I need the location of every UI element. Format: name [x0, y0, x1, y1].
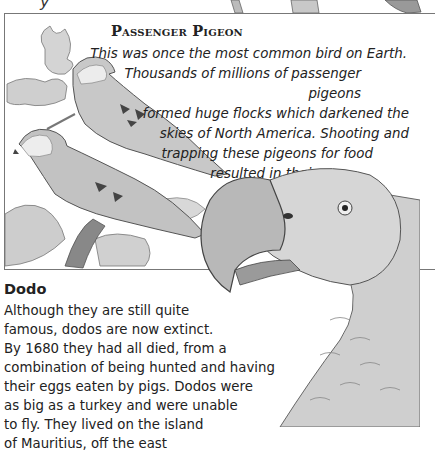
- text-line: to fly. They lived on the island: [4, 415, 275, 434]
- text-line: formed huge flocks which darkened the: [87, 104, 409, 124]
- text-line: their eggs eaten by pigs. Dodos were: [4, 377, 275, 396]
- bird-feet-illustration: [225, 0, 425, 14]
- text-line: By 1680 they had all died, from a: [4, 339, 275, 358]
- text-line: combination of being hunted and having: [4, 358, 275, 377]
- previous-text-fragment: y: [40, 0, 49, 11]
- dodo-text: Although they are still quite famous, do…: [4, 301, 275, 453]
- text-line: of Mauritius, off the east: [4, 434, 275, 453]
- passenger-pigeon-title: Passenger Pigeon: [111, 22, 243, 39]
- text-line: This was once the most common bird on Ea…: [87, 44, 407, 64]
- text-line: famous, dodos are now extinct.: [4, 320, 275, 339]
- text-line: as big as a turkey and were unable: [4, 396, 275, 415]
- text-line: Thousands of millions of passenger pigeo…: [87, 64, 361, 104]
- text-line: Although they are still quite: [4, 301, 275, 320]
- dodo-title: Dodo: [4, 281, 46, 297]
- text-line: skies of North America. Shooting and: [87, 124, 409, 144]
